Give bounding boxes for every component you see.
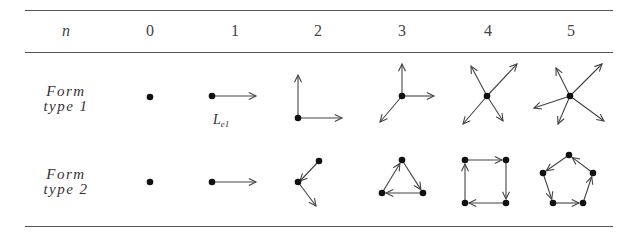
type1-n4-edge	[487, 96, 503, 121]
type2-n3-edge	[386, 190, 423, 197]
type2-n5-edge	[583, 177, 593, 203]
type2-n4-edge	[469, 200, 506, 207]
type1-n4-edge	[463, 96, 487, 124]
type2-n5-node	[540, 170, 547, 177]
type2-n0-node	[147, 179, 154, 186]
type2-n3-edge	[382, 163, 400, 193]
type2-n5-edge	[553, 200, 579, 207]
type2-n5-node	[550, 200, 557, 207]
type2-n3-node	[399, 157, 406, 164]
type2-n5-edge	[572, 157, 593, 173]
type1-n5-center-node	[567, 93, 574, 100]
type2-n3-node	[420, 190, 427, 197]
type2-n1-edge	[212, 179, 256, 186]
type1-n3-edge	[402, 93, 434, 100]
type2-n4-node	[462, 200, 469, 207]
type2-n2-node	[295, 179, 302, 186]
type1-n5-edge	[556, 68, 570, 96]
type2-n5-node	[580, 200, 587, 207]
type1-n2-center-node	[295, 115, 302, 122]
type1-n3-edge	[380, 96, 402, 122]
type2-n4-node	[503, 157, 510, 164]
type1-n0-node	[147, 94, 154, 101]
type1-n2-edge	[295, 75, 302, 118]
type2-n2-edge	[298, 182, 316, 206]
type2-n3-edge	[402, 160, 421, 190]
type1-n5-edge	[534, 96, 570, 109]
type2-n1-node	[209, 179, 216, 186]
type1-n4-center-node	[484, 93, 491, 100]
type1-n4-edge	[471, 66, 487, 96]
type1-n3-center-node	[399, 93, 406, 100]
type1-n2-edge	[298, 115, 342, 122]
edge-label: Le1	[212, 112, 229, 129]
type1-n3-edge	[399, 64, 406, 96]
type2-n4-edge	[462, 164, 469, 203]
type2-n2-node	[316, 158, 323, 165]
type2-n4-node	[503, 200, 510, 207]
type2-n5-node	[590, 170, 597, 177]
type2-n4-node	[462, 157, 469, 164]
type2-n2-edge	[300, 161, 319, 181]
type1-n4-edge	[487, 64, 517, 96]
type1-n5-edge	[558, 96, 570, 124]
graph-figures: Le1	[0, 0, 635, 232]
type1-n5-edge	[570, 64, 602, 96]
type2-n4-edge	[465, 157, 502, 164]
type1-n5-edge	[570, 96, 604, 121]
type1-n1-node	[209, 93, 216, 100]
type2-n3-node	[379, 190, 386, 197]
type1-n1-edge	[212, 93, 256, 100]
type2-n4-edge	[503, 160, 510, 199]
type2-n5-edge	[543, 173, 553, 199]
type2-n5-edge	[546, 155, 569, 171]
type2-n5-node	[566, 152, 573, 159]
